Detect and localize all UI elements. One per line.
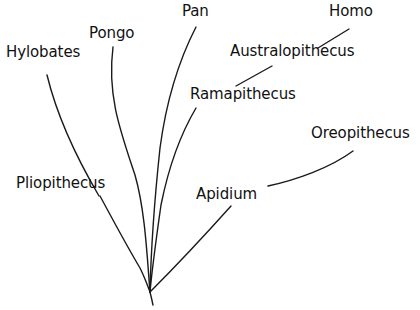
taxon-label-homo: Homo: [329, 4, 373, 19]
branch-pongo: [112, 47, 150, 292]
taxon-label-australopithecus: Australopithecus: [230, 44, 354, 59]
branch-australopithecus: [236, 66, 272, 86]
taxon-label-pongo: Pongo: [89, 26, 134, 41]
branch-ramapithecus: [150, 108, 196, 292]
taxon-label-pan: Pan: [182, 4, 209, 19]
taxon-label-pliopithecus: Pliopithecus: [16, 176, 105, 191]
taxon-label-ramapithecus: Ramapithecus: [190, 87, 296, 102]
taxon-label-hylobates: Hylobates: [6, 45, 80, 60]
branch-oreopithecus: [268, 151, 353, 186]
taxon-label-oreopithecus: Oreopithecus: [311, 126, 410, 141]
taxon-label-apidium: Apidium: [196, 187, 257, 202]
root-stem: [150, 292, 153, 305]
branch-apidium: [150, 206, 231, 292]
phylogenetic-tree-figure: HylobatesPongoPanHomoAustralopithecusRam…: [0, 0, 420, 310]
branch-group: [47, 27, 353, 305]
